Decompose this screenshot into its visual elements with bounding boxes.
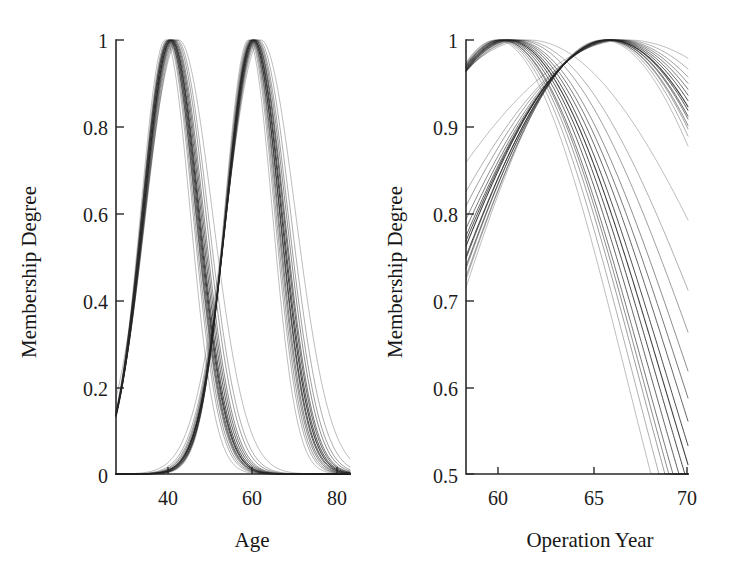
x-axis-title-left: Age (235, 528, 270, 552)
chart-panel-operation-year: Membership Degree 1 0.9 0.8 0.7 0.6 0.5 (380, 0, 729, 570)
x-tick-label-right-70: 70 (677, 487, 697, 509)
y-tick-label-left-0p8: 0.8 (83, 117, 108, 139)
y-tick-label-left-0: 0 (98, 465, 108, 487)
figure-container: Membership Degree 1 0.8 0.6 0.4 0.2 0 (0, 0, 729, 570)
y-tick-label-left-0p4: 0.4 (83, 291, 108, 313)
y-tick-label-left-0p6: 0.6 (83, 204, 108, 226)
y-tick-label-right-1: 1 (448, 30, 458, 52)
y-tick-label-right-0p8: 0.8 (433, 204, 458, 226)
chart-panel-age: Membership Degree 1 0.8 0.6 0.4 0.2 0 (0, 0, 380, 570)
y-tick-label-left-0p2: 0.2 (83, 378, 108, 400)
y-axis-title-right: Membership Degree (383, 186, 407, 358)
x-tick-label-right-65: 65 (584, 487, 604, 509)
membership-curve (466, 40, 688, 465)
membership-curve (466, 40, 688, 236)
y-tick-label-right-0p9: 0.9 (433, 117, 458, 139)
operation-year-membership-plot: Membership Degree 1 0.9 0.8 0.7 0.6 0.5 (380, 0, 729, 570)
curve-bundle-age (116, 40, 350, 474)
membership-curve (116, 40, 350, 474)
x-tick-label-left-60: 60 (242, 487, 262, 509)
x-axis-title-right: Operation Year (526, 528, 653, 552)
y-tick-label-right-0p7: 0.7 (433, 291, 458, 313)
y-tick-label-right-0p5: 0.5 (433, 465, 458, 487)
age-membership-plot: Membership Degree 1 0.8 0.6 0.4 0.2 0 (0, 0, 380, 570)
curve-bundle-operation-year (466, 40, 688, 474)
y-tick-label-right-0p6: 0.6 (433, 378, 458, 400)
x-tick-label-right-60: 60 (488, 487, 508, 509)
membership-curve (466, 40, 688, 421)
y-tick-label-left-1: 1 (98, 30, 108, 52)
membership-curve (466, 40, 688, 474)
x-tick-label-left-80: 80 (327, 487, 347, 509)
x-tick-label-left-40: 40 (158, 487, 178, 509)
y-axis-title-left: Membership Degree (17, 186, 41, 358)
membership-curve (466, 40, 688, 371)
